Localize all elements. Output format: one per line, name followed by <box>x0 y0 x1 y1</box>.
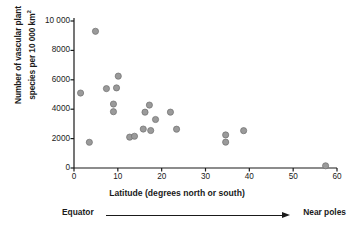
data-point <box>152 116 158 122</box>
x-tick-label-50: 50 <box>280 173 306 181</box>
right-arrow-icon <box>106 212 290 219</box>
data-point <box>241 128 247 134</box>
x-tick-label-20: 20 <box>149 173 175 181</box>
data-point <box>140 126 146 132</box>
data-point <box>146 102 152 108</box>
x-tick-label-60: 60 <box>324 173 350 181</box>
data-point <box>92 28 98 34</box>
annotation-right-label: Near poles <box>303 207 346 217</box>
data-point <box>77 90 83 96</box>
data-point <box>142 109 148 115</box>
data-point <box>115 73 121 79</box>
x-tick-label-30: 30 <box>193 173 219 181</box>
data-point <box>110 101 116 107</box>
data-point <box>323 163 329 169</box>
arrow-shaft <box>106 215 283 216</box>
annotation-left-label: Equator <box>62 207 94 217</box>
x-tick-label-40: 40 <box>236 173 262 181</box>
data-point <box>103 86 109 92</box>
data-points <box>77 28 328 169</box>
axis-lines <box>74 18 337 168</box>
equator-to-poles-annotation: Equator Near poles <box>0 206 354 222</box>
data-point <box>223 139 229 145</box>
scatter-chart-figure: Number of vascular plant species per 10 … <box>0 0 354 230</box>
data-point <box>173 126 179 132</box>
data-point <box>223 132 229 138</box>
x-tick-label-0: 0 <box>61 173 87 181</box>
data-point <box>86 139 92 145</box>
data-point <box>113 85 119 91</box>
arrow-head <box>282 212 290 218</box>
data-point <box>148 127 154 133</box>
x-tick-label-10: 10 <box>105 173 131 181</box>
data-point <box>110 109 116 115</box>
x-axis-title: Latitude (degrees north or south) <box>0 188 354 198</box>
data-point <box>167 109 173 115</box>
data-point <box>131 133 137 139</box>
